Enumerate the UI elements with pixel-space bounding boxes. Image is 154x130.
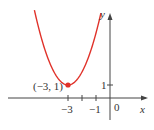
plot-area <box>0 0 154 130</box>
y-axis-arrow-icon <box>108 13 113 20</box>
x-axis-label: x <box>140 104 145 115</box>
y-tick-label-1: 1 <box>101 80 107 91</box>
x-axis-arrow-icon <box>141 96 148 101</box>
vertex-point <box>65 82 70 87</box>
origin-label: 0 <box>114 102 120 113</box>
chart: (−3, 1) −3 −1 0 1 x y <box>0 0 154 130</box>
parabola-curve <box>34 10 101 85</box>
x-tick-label-m1: −1 <box>89 104 101 115</box>
y-axis-label: y <box>100 9 105 20</box>
x-tick-label-m3: −3 <box>61 104 73 115</box>
vertex-label: (−3, 1) <box>33 81 63 92</box>
